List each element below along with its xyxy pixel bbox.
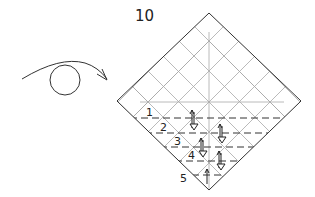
- pleat-label-4: 4: [188, 149, 195, 162]
- pleat-label-1: 1: [146, 106, 153, 119]
- crease-grid: [26, 0, 315, 190]
- turn-over-arrow-icon: [22, 61, 107, 95]
- step-number: 10: [135, 7, 154, 25]
- pleat-label-5: 5: [180, 172, 187, 185]
- pleat-label-2: 2: [160, 121, 167, 134]
- pleat-arrow-icon: [205, 169, 209, 184]
- origami-diagram: 1 2 3 4 5: [0, 0, 315, 197]
- pleat-label-3: 3: [174, 135, 181, 148]
